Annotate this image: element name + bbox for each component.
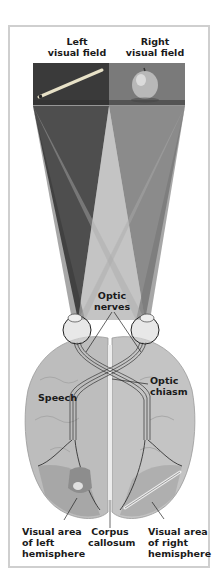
brain — [25, 337, 195, 528]
visual-area-right-label: Visual area of right hemisphere — [148, 526, 211, 559]
apple-projection-icon — [68, 467, 92, 493]
optic-nerves-label: Optic nerves — [92, 290, 132, 312]
right-visual-field-label: Right visual field — [122, 36, 188, 58]
optic-chiasm-label: Optic chiasm — [150, 375, 188, 397]
left-visual-field-label: Left visual field — [44, 36, 110, 58]
speech-label: Speech — [38, 392, 77, 403]
corpus-callosum-label: Corpus callosum — [88, 526, 132, 548]
visual-area-left-label: Visual area of left hemisphere — [22, 526, 85, 559]
